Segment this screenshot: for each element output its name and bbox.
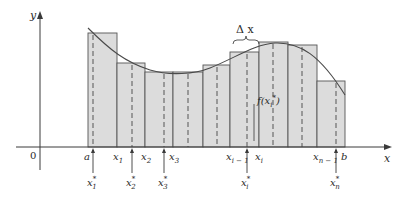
partition-label: xn − 1 <box>313 151 338 165</box>
riemann-rectangle <box>117 63 145 147</box>
sample-point-label: x*n <box>330 175 340 191</box>
riemann-sum-diagram: y x 0 Δ x f(xi*) ax1x2x3xi − 1xixn − 1b … <box>0 0 409 197</box>
arrow-up-icon <box>91 148 95 153</box>
partition-labels: ax1x2x3xi − 1xixn − 1b <box>84 151 347 165</box>
arrow-up-icon <box>162 148 166 153</box>
sample-point-label: x*3 <box>158 175 168 191</box>
riemann-rectangle <box>230 52 259 147</box>
partition-label: a <box>84 151 90 162</box>
sample-point-label: x*i <box>241 175 251 191</box>
partition-label: xi − 1 <box>226 151 249 165</box>
arrow-up-icon <box>130 148 134 153</box>
x-axis-label: x <box>384 152 391 165</box>
arrow-up-icon <box>334 148 338 153</box>
delta-x-label: Δ x <box>236 23 254 36</box>
partition-label: x1 <box>113 151 123 165</box>
sample-point-labels: x*1x*2x*3x*ix*n <box>87 148 340 191</box>
y-axis-arrow-icon <box>37 11 43 19</box>
riemann-rectangles <box>88 33 345 147</box>
y-axis-label: y <box>29 9 37 22</box>
delta-x-brace <box>233 36 259 44</box>
arrow-up-icon <box>245 148 249 153</box>
origin-label: 0 <box>30 150 36 161</box>
partition-label: xi <box>255 151 263 165</box>
riemann-rectangle <box>317 81 345 147</box>
sample-point-label: x*1 <box>87 175 97 191</box>
partition-label: x2 <box>141 151 152 165</box>
partition-label: x3 <box>169 151 180 165</box>
partition-label: b <box>341 151 347 162</box>
x-axis-arrow-icon <box>384 144 392 150</box>
riemann-rectangle <box>145 72 173 147</box>
sample-point-label: x*2 <box>126 175 136 191</box>
